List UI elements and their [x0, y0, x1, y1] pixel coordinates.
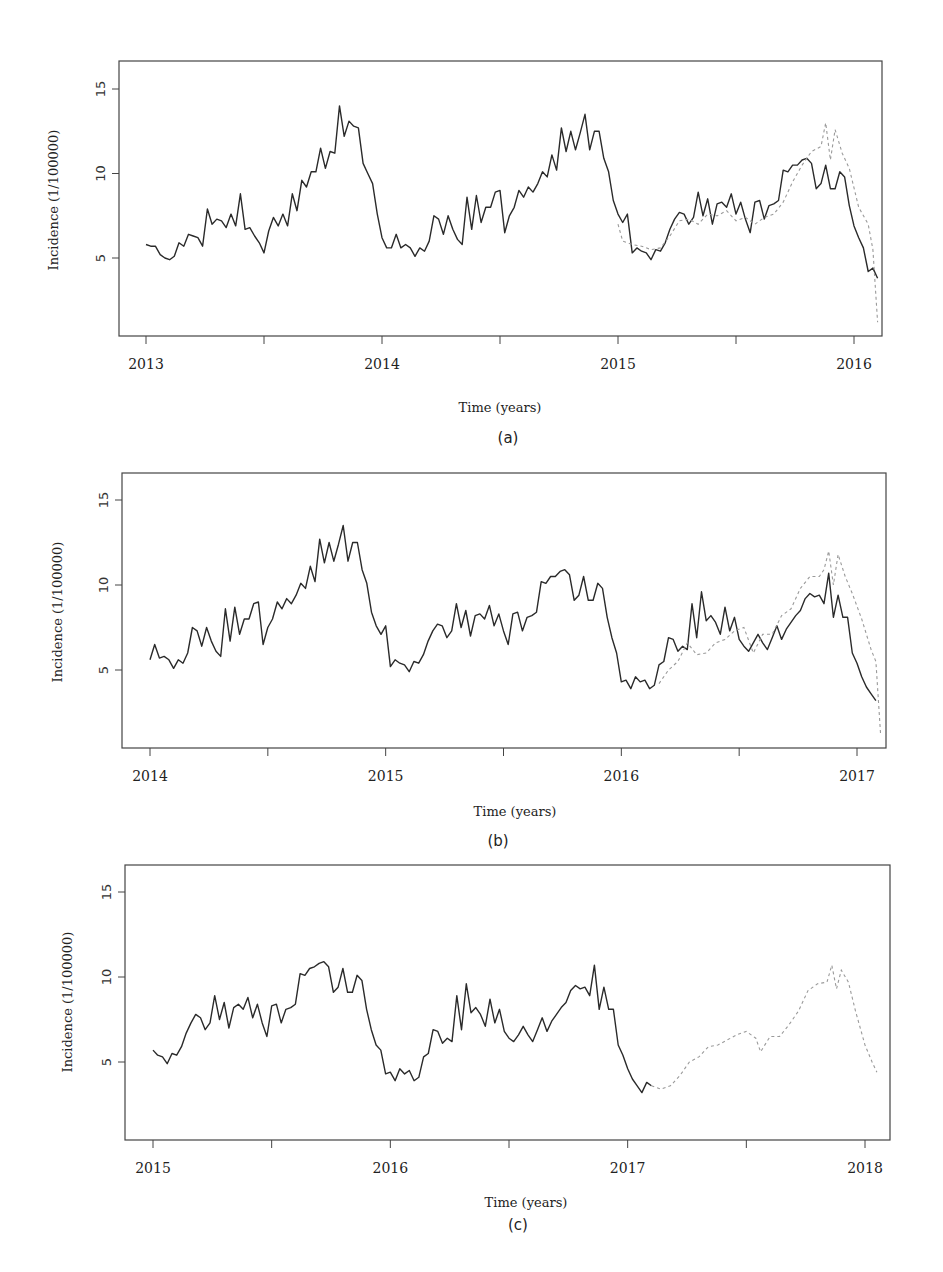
- x-tick-label: 2016: [604, 768, 640, 784]
- x-tick-label: 2015: [368, 768, 404, 784]
- y-axis-title: Incidence (1/100000): [46, 130, 61, 271]
- y-tick-label: 15: [93, 81, 108, 98]
- y-tick-label: 5: [93, 254, 108, 262]
- plot-area: 510152015201620172018: [99, 865, 890, 1176]
- x-tick-label: 2014: [364, 356, 400, 372]
- chart-panel-b: 510152014201520162017 Incidence (1/10000…: [50, 473, 886, 850]
- panel-caption: (b): [487, 832, 508, 850]
- panel-caption: (a): [498, 429, 519, 447]
- x-tick-label: 2013: [128, 356, 164, 372]
- x-axis-title: Time (years): [485, 1195, 568, 1210]
- chart-panel-c: 510152015201620172018 Incidence (1/10000…: [60, 865, 890, 1234]
- x-tick-label: 2016: [373, 1160, 409, 1176]
- x-tick-label: 2015: [600, 356, 636, 372]
- plot-frame: [125, 865, 890, 1140]
- y-tick-label: 15: [96, 492, 111, 509]
- x-axis-title: Time (years): [474, 804, 557, 819]
- plot-area: 510152013201420152016: [93, 61, 882, 372]
- plot-frame: [122, 473, 886, 748]
- y-tick-label: 10: [96, 577, 111, 594]
- forecast-series-line: [618, 123, 878, 322]
- y-axis-title: Incidence (1/100000): [60, 932, 75, 1073]
- observed-series-line: [153, 962, 651, 1093]
- observed-series-line: [150, 526, 876, 701]
- plot-area: 510152014201520162017: [96, 473, 886, 784]
- x-tick-label: 2015: [135, 1160, 171, 1176]
- x-axis-title: Time (years): [459, 400, 542, 415]
- y-tick-label: 15: [99, 884, 114, 901]
- observed-series-line: [146, 106, 878, 278]
- y-tick-label: 10: [93, 165, 108, 182]
- x-tick-label: 2017: [610, 1160, 646, 1176]
- forecast-series-line: [651, 965, 877, 1089]
- figure-canvas: 510152013201420152016 Incidence (1/10000…: [0, 0, 943, 1272]
- x-tick-label: 2014: [132, 768, 168, 784]
- y-tick-label: 10: [99, 969, 114, 986]
- y-tick-label: 5: [99, 1058, 114, 1066]
- panel-caption: (c): [508, 1216, 528, 1234]
- x-tick-label: 2018: [847, 1160, 883, 1176]
- y-axis-title: Incidence (1/100000): [50, 542, 65, 683]
- x-tick-label: 2016: [836, 356, 872, 372]
- chart-panel-a: 510152013201420152016 Incidence (1/10000…: [46, 61, 882, 447]
- y-tick-label: 5: [96, 666, 111, 674]
- x-tick-label: 2017: [839, 768, 875, 784]
